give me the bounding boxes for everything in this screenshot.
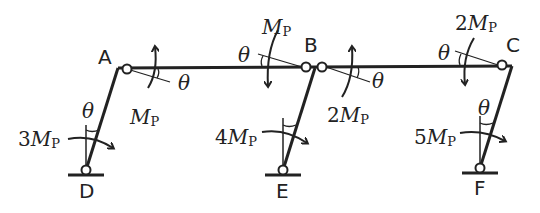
- beam: [118, 66, 512, 68]
- hinge-B-right: [318, 63, 327, 72]
- moment-arrow-F: [460, 132, 505, 141]
- moment-arrow-C: [464, 38, 474, 84]
- moment-label-E: 4MP: [215, 125, 257, 149]
- moment-arrow-D: [68, 138, 113, 148]
- moment-label-F: 5MP: [414, 125, 456, 149]
- rotated-chord-A: [127, 69, 170, 82]
- theta-arc-B-right: [357, 67, 359, 78]
- moment-label-B-left: MP: [261, 15, 291, 39]
- rotated-chord-B-left: [258, 54, 302, 67]
- theta-arc-B-left: [261, 56, 263, 66]
- theta-arc-C: [459, 54, 461, 65]
- moment-label-A: MP: [129, 105, 159, 129]
- pin-support-E: [279, 166, 288, 175]
- hinge-A: [123, 65, 132, 74]
- node-label-B: B: [304, 33, 318, 57]
- frame-diagram: A B C D E F θ θ θ θ θ θ MP MP 2MP 2MP 3M…: [0, 0, 540, 213]
- theta-arc-D: [86, 130, 99, 132]
- theta-arc-E: [283, 125, 296, 127]
- node-label-A: A: [98, 45, 112, 69]
- theta-label-C: θ: [438, 41, 450, 65]
- hinge-C: [498, 61, 507, 70]
- moment-label-C: 2MP: [455, 11, 497, 35]
- theta-label-F: θ: [478, 96, 490, 120]
- column-BE: [283, 68, 315, 170]
- theta-label-A: θ: [178, 71, 190, 95]
- theta-label-B-right: θ: [372, 69, 384, 93]
- theta-arc-A: [157, 69, 159, 78]
- node-label-D: D: [79, 179, 94, 203]
- moment-label-B-right: 2MP: [327, 103, 369, 127]
- theta-label-D: θ: [82, 99, 94, 123]
- moment-arrow-B-right: [342, 47, 352, 97]
- moment-label-D: 3MP: [18, 127, 60, 151]
- rotated-chord-B-right: [326, 67, 370, 82]
- node-label-C: C: [506, 33, 520, 57]
- node-label-E: E: [276, 179, 289, 203]
- pin-support-D: [82, 166, 91, 175]
- theta-arc-F: [480, 123, 493, 125]
- theta-label-B-left: θ: [238, 43, 250, 67]
- rotated-chord-C: [455, 51, 498, 65]
- pin-support-F: [476, 164, 485, 173]
- node-label-F: F: [474, 176, 486, 200]
- hinge-B-left: [302, 63, 311, 72]
- moment-arrow-E: [262, 131, 307, 143]
